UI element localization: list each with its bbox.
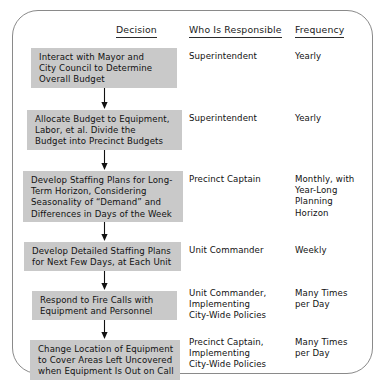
process-box-row-2: Allocate Budget to Equipment, Labor, et … (27, 110, 182, 150)
frequency-row-4: Weekly (295, 245, 327, 256)
frequency-row-1: Yearly (295, 51, 321, 62)
responsible-row-2: Superintendent (189, 113, 257, 124)
arrow-row4-to-row5 (99, 271, 110, 291)
arrow-row1-to-row2 (99, 88, 110, 110)
frequency-row-6: Many Times per Day (295, 337, 347, 359)
flowchart-page: Decision Who Is Responsible Frequency In… (0, 0, 387, 389)
responsible-row-4: Unit Commander (189, 245, 264, 256)
arrow-row3-to-row4 (99, 222, 110, 242)
responsible-row-6: Precinct Captain, Implementing City-Wide… (189, 337, 266, 371)
responsible-row-1: Superintendent (189, 51, 257, 62)
frequency-row-2: Yearly (295, 113, 321, 124)
process-box-row-3: Develop Staffing Plans for Long- Term Ho… (23, 171, 183, 222)
responsible-row-5: Unit Commander, Implementing City-Wide P… (189, 288, 266, 322)
frequency-row-5: Many Times per Day (295, 288, 347, 310)
frequency-row-3: Monthly, with Year-Long Planning Horizon (295, 174, 354, 219)
column-header-frequency: Frequency (295, 24, 344, 38)
process-box-row-6: Change Location of Equipment to Cover Ar… (30, 340, 180, 380)
process-box-row-4: Develop Detailed Staffing Plans for Next… (24, 242, 181, 271)
arrow-row2-to-row3 (99, 150, 110, 171)
arrow-row5-to-row6 (99, 320, 110, 340)
responsible-row-3: Precinct Captain (189, 174, 261, 185)
process-box-row-5: Respond to Fire Calls with Equipment and… (32, 291, 177, 320)
column-header-who-is-responsible: Who Is Responsible (189, 24, 282, 38)
column-header-decision: Decision (116, 24, 157, 38)
process-box-row-1: Interact with Mayor and City Council to … (31, 48, 177, 88)
